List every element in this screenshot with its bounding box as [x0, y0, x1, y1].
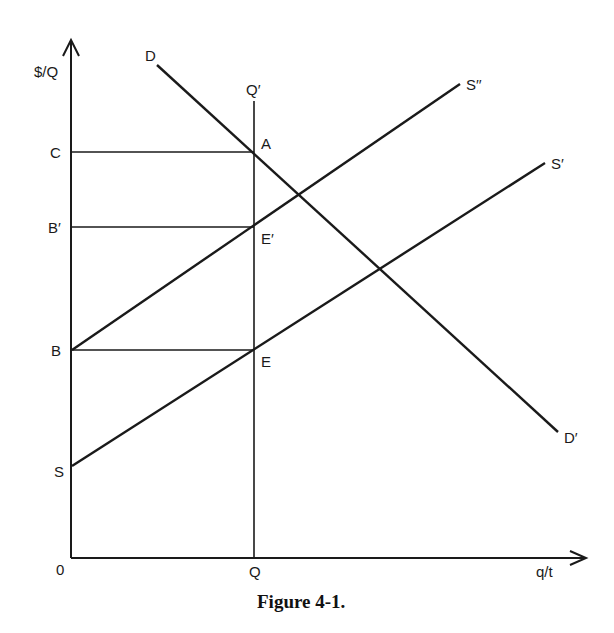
- x-axis-label: q/t: [536, 563, 554, 580]
- label-s: S: [54, 463, 64, 480]
- supply-curve-s-prime: [72, 163, 545, 466]
- figure-4-1: $/Q D Q′ S′′ S′ D′ A E′ E C B′ B S 0 Q q…: [0, 0, 614, 633]
- label-c: C: [50, 144, 61, 161]
- label-b-prime: B′: [48, 219, 61, 236]
- label-s-double-prime: S′′: [466, 76, 482, 93]
- label-e: E: [261, 353, 271, 370]
- label-a: A: [261, 135, 271, 152]
- origin-label: 0: [56, 561, 64, 578]
- label-b: B: [51, 342, 61, 359]
- label-d-prime: D′: [564, 429, 578, 446]
- label-d: D: [145, 47, 156, 64]
- figure-caption: Figure 4-1.: [257, 591, 345, 612]
- label-e-prime: E′: [261, 230, 274, 247]
- y-axis-label: $/Q: [34, 63, 58, 80]
- demand-curve: [157, 65, 558, 432]
- label-q: Q: [249, 563, 261, 580]
- supply-demand-diagram: $/Q D Q′ S′′ S′ D′ A E′ E C B′ B S 0 Q q…: [0, 0, 614, 633]
- label-s-prime: S′: [551, 155, 564, 172]
- supply-curve-s-double-prime: [72, 84, 460, 350]
- label-q-prime: Q′: [246, 81, 261, 98]
